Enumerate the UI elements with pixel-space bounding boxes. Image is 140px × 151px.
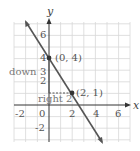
x-tick-0: 0 [39, 108, 45, 119]
right-label: right 2 [38, 93, 72, 104]
x-tick-6: 6 [115, 108, 121, 119]
point-0-4 [47, 56, 52, 61]
y-axis-arrow-icon [47, 18, 52, 24]
x-tick-2: 2 [69, 108, 75, 119]
grid [14, 22, 130, 142]
point-label-2-1: (2, 1) [76, 87, 103, 98]
down-amount: 3 [40, 66, 46, 77]
graph: y x -2 0 2 4 6 6 4 2 -2 (0, 4) (2, 1) do… [0, 0, 140, 151]
x-axis-label: x [133, 99, 140, 112]
down-label: down [9, 66, 37, 77]
x-tick-neg2: -2 [15, 108, 25, 119]
y-axis-label: y [46, 5, 54, 18]
x-tick-4: 4 [93, 108, 99, 119]
line-arrow-bottom-icon [98, 137, 104, 144]
point-label-0-4: (0, 4) [55, 52, 82, 63]
y-tick-6: 6 [40, 29, 46, 40]
y-tick-neg2: -2 [35, 122, 45, 133]
